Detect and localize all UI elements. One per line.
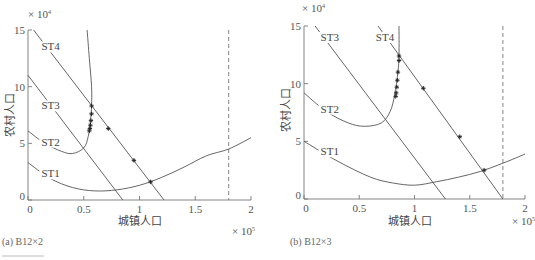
series-st1: [28, 138, 251, 191]
x-tick-label: 0.5: [352, 202, 366, 214]
x-tick-label: 0.5: [77, 203, 91, 215]
x-multiplier: × 105: [512, 215, 535, 227]
y-tick-label: 10: [290, 78, 302, 90]
series-st4: [378, 26, 503, 199]
x-tick-label: 1: [137, 203, 143, 215]
series-label: ST3: [321, 31, 340, 43]
chart-panel-b: 00.511.52051015ST3ST4ST2ST1城镇人口农村人口× 105…: [279, 2, 535, 248]
data-marker: [89, 118, 93, 122]
y-multiplier: × 104: [302, 2, 325, 14]
series-label: ST4: [376, 31, 395, 43]
y-tick-label: 0: [20, 190, 26, 202]
data-marker: [482, 168, 486, 172]
data-marker: [396, 70, 400, 74]
panel-caption: (b) B12×3: [290, 236, 331, 248]
panel-caption: (a) B12×2: [2, 236, 43, 248]
data-marker: [397, 58, 401, 62]
y-tick-label: 15: [290, 20, 302, 32]
x-tick-label: 2: [248, 203, 254, 215]
y-axis-title: 农村人口: [279, 88, 293, 132]
y-tick-label: 10: [14, 81, 26, 93]
data-marker: [395, 85, 399, 89]
y-multiplier: × 104: [28, 8, 51, 20]
y-tick-label: 15: [14, 24, 26, 36]
data-marker: [89, 112, 93, 116]
x-tick-label: 0: [303, 202, 309, 214]
series-label: ST2: [321, 103, 339, 115]
series-label: ST1: [41, 167, 59, 179]
x-tick-label: 1.5: [463, 202, 477, 214]
y-tick-label: 5: [20, 137, 26, 149]
chart-panel-a: 00.511.52051015ST4ST3ST2ST1城镇人口农村人口× 105…: [2, 8, 255, 256]
x-multiplier: × 105: [232, 225, 255, 237]
series-label: ST3: [41, 99, 60, 111]
y-tick-label: 5: [296, 135, 302, 147]
series-label: ST2: [41, 136, 59, 148]
series-label: ST1: [321, 145, 339, 157]
x-axis-title: 城镇人口: [388, 214, 432, 228]
x-tick-label: 0: [27, 203, 33, 215]
data-marker: [458, 135, 462, 139]
data-marker: [88, 123, 92, 127]
x-axis-title: 城镇人口: [118, 214, 162, 228]
series-label: ST4: [41, 40, 60, 52]
data-marker: [106, 126, 110, 130]
chart-figure: 00.511.52051015ST4ST3ST2ST1城镇人口农村人口× 105…: [0, 0, 535, 260]
y-tick-label: 0: [296, 189, 302, 201]
x-tick-label: 1.5: [188, 203, 202, 215]
x-tick-label: 1: [412, 202, 418, 214]
data-marker: [395, 78, 399, 82]
x-tick-label: 2: [522, 202, 528, 214]
y-axis-title: 农村人口: [3, 93, 17, 137]
